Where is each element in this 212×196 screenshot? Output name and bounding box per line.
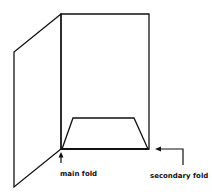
main-fold-label: main fold [60,170,97,178]
secondary-fold-label: secondary fold [150,172,208,180]
secondary-fold-arrow-icon [155,147,183,166]
bottom-trapezoid-flap [62,118,148,149]
left-folded-panel [14,14,61,187]
main-fold-arrow-icon [59,152,64,163]
fold-diagram: main fold secondary fold [0,0,212,196]
main-panel [61,14,149,149]
